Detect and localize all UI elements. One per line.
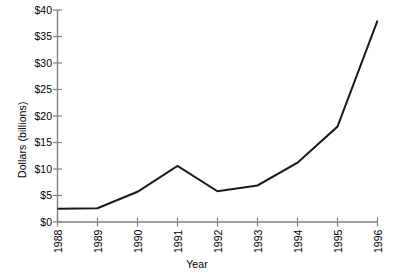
axis-ticks [53,10,378,227]
plot-area [0,0,394,278]
line-chart: Dollars (billions) Year $0$5$10$15$20$25… [0,0,394,278]
data-series-line [58,21,378,209]
